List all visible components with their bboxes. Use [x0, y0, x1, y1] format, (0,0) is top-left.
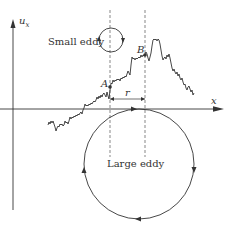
y-axis-label: ux [19, 15, 29, 29]
velocity-signal-trace [48, 39, 194, 131]
small-eddy-label: Small eddy [48, 36, 105, 47]
large-eddy-arrow-right-icon [192, 167, 197, 173]
large-eddy-label: Large eddy [107, 158, 165, 169]
separation-r-label: r [125, 87, 131, 98]
large-eddy-arrow-bottom-icon [135, 217, 141, 222]
small-eddy-arrow-right-icon [121, 38, 125, 43]
large-eddy-arrow-top-icon [131, 107, 137, 112]
y-axis-arrow-icon [11, 19, 16, 28]
point-a-marker [108, 85, 112, 89]
x-axis-arrow-icon [213, 106, 224, 111]
point-b-label: B [136, 44, 144, 55]
diagram-canvas: ux x A B r Small eddy Large eddy [0, 0, 232, 230]
large-eddy-arrow-left-icon [82, 167, 87, 173]
point-a-label: A [100, 78, 108, 89]
x-axis-label: x [211, 95, 217, 106]
y-axis [11, 19, 16, 210]
x-axis [0, 106, 224, 111]
turbulence-eddy-diagram: ux x A B r Small eddy Large eddy [0, 0, 232, 230]
